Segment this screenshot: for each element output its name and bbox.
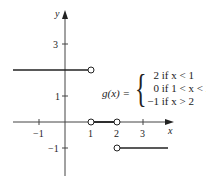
open-circle-icon [88, 119, 94, 125]
open-circle-icon [114, 119, 120, 125]
y-axis-label: y [54, 8, 60, 19]
y-tick-label: 3 [53, 39, 58, 50]
x-tick-label: 2 [114, 128, 119, 139]
case-value: −1 [147, 95, 159, 108]
equation-lhs: g(x) = [102, 87, 130, 99]
case-value: 0 [147, 82, 159, 95]
y-tick-label: 1 [55, 91, 60, 102]
case-condition: if 1 < x < 2 [162, 82, 206, 94]
x-axis-label: x [167, 125, 173, 136]
open-circle-icon [88, 67, 94, 73]
case-condition: if x < 1 [162, 69, 194, 81]
case-row: −1 if x > 2 [147, 95, 194, 108]
case-value: 2 [147, 69, 159, 82]
x-tick-label: 1 [88, 128, 93, 139]
y-axis-arrow-icon [62, 10, 68, 19]
case-row: 2 if x < 1 [147, 69, 194, 82]
y-tick-label: −1 [48, 143, 59, 154]
case-row: 0 if 1 < x < 2 [147, 82, 206, 95]
brace-icon: { [135, 69, 147, 109]
open-circle-icon [114, 145, 120, 151]
x-tick-label: 3 [140, 128, 145, 139]
x-tick-label: −1 [33, 128, 44, 139]
case-condition: if x > 2 [162, 95, 194, 107]
